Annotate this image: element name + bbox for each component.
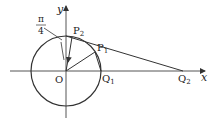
point-p1-label: P1: [97, 42, 108, 55]
tangent-line: [66, 36, 183, 71]
x-axis-label: x: [201, 71, 208, 84]
point-q2-label: Q2: [178, 73, 191, 86]
angle-numerator: π: [38, 14, 44, 24]
angle-arc: [61, 42, 64, 60]
angle-denominator: 4: [38, 26, 44, 36]
radius-op1: [66, 52, 95, 71]
origin-label: O: [55, 74, 63, 85]
diagram: y x O π 4 P2 P1 Q1 Q2: [0, 0, 213, 123]
radius-op2: [68, 37, 72, 62]
point-q1-label: Q1: [102, 73, 115, 86]
point-p2-label: P2: [73, 25, 84, 38]
y-axis-label: y: [56, 3, 64, 16]
